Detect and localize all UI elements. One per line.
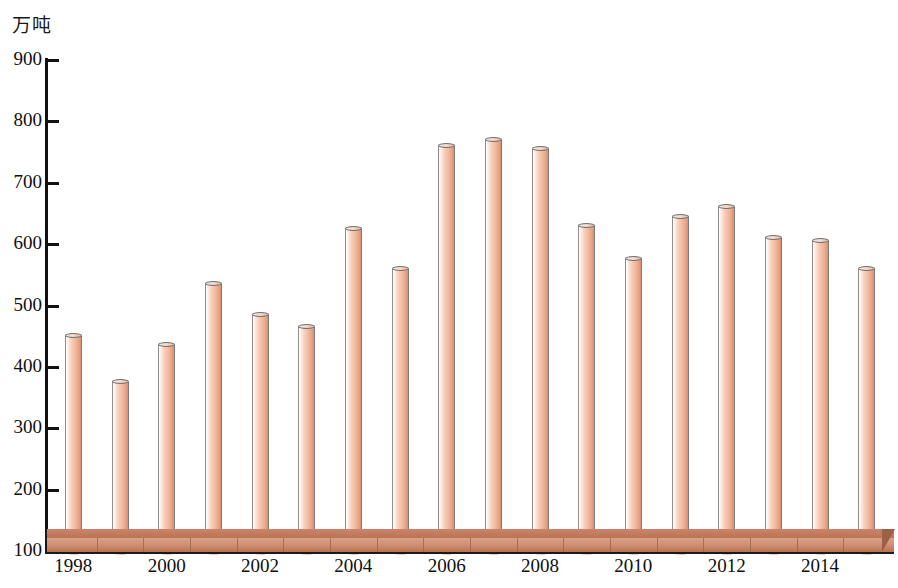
bar-cylinder-body — [812, 241, 829, 551]
base-platform-right-cap — [882, 529, 895, 552]
bar-cylinder-top-cap — [532, 146, 549, 151]
bar — [298, 327, 315, 551]
base-platform-left-edge — [45, 529, 47, 552]
base-platform-divider — [283, 538, 284, 552]
bar-cylinder-top-cap — [812, 238, 829, 243]
base-platform-divider — [190, 538, 191, 552]
base-platform-divider — [423, 538, 424, 552]
bar-cylinder-body — [672, 217, 689, 551]
bar-cylinder-top-cap — [858, 266, 875, 271]
y-axis-tick-label: 600 — [2, 233, 42, 252]
y-axis-tick-label: 500 — [2, 295, 42, 314]
bar-cylinder-top-cap — [298, 324, 315, 329]
bar-cylinder-top-cap — [205, 281, 222, 286]
bar-cylinder-body — [112, 382, 129, 551]
bar — [65, 336, 82, 551]
x-axis-tick-label: 2006 — [428, 556, 466, 575]
bar — [532, 149, 549, 551]
base-platform-divider — [330, 538, 331, 552]
bar — [578, 226, 595, 551]
base-platform-divider — [143, 538, 144, 552]
y-axis-tick-labels: 900800700600500400300200100 — [0, 0, 42, 588]
bar-cylinder-top-cap — [345, 226, 362, 231]
base-platform-divider — [237, 538, 238, 552]
base-platform-divider — [657, 538, 658, 552]
bar — [252, 315, 269, 551]
bar-chart: 万吨 900800700600500400300200100 199820002… — [0, 0, 898, 588]
bar-cylinder-top-cap — [485, 137, 502, 142]
y-axis-tick — [48, 59, 59, 62]
x-axis-tick-label: 2008 — [521, 556, 559, 575]
bar-cylinder-body — [438, 146, 455, 551]
bar-cylinder-top-cap — [672, 214, 689, 219]
bar-cylinder-top-cap — [765, 235, 782, 240]
bar-cylinder-body — [858, 269, 875, 551]
bar-cylinder-body — [205, 284, 222, 551]
base-platform-divider — [797, 538, 798, 552]
y-axis-tick-label: 800 — [2, 110, 42, 129]
bar-cylinder-body — [252, 315, 269, 551]
bar-cylinder-body — [158, 345, 175, 551]
x-axis-tick-label: 2012 — [708, 556, 746, 575]
bar — [205, 284, 222, 551]
plot-area — [48, 58, 894, 551]
y-axis-tick — [48, 305, 59, 308]
bar — [625, 259, 642, 551]
base-platform-divider — [843, 538, 844, 552]
y-axis-tick — [48, 427, 59, 430]
y-axis-tick — [48, 489, 59, 492]
base-platform-divider — [97, 538, 98, 552]
bar-cylinder-top-cap — [252, 312, 269, 317]
bar — [485, 140, 502, 551]
bar-cylinder-body — [765, 238, 782, 551]
bar-cylinder-body — [392, 269, 409, 551]
chart-base-platform — [45, 529, 894, 555]
y-axis-tick — [48, 243, 59, 246]
base-platform-divider — [517, 538, 518, 552]
x-axis-tick-label: 1998 — [54, 556, 92, 575]
bar — [718, 207, 735, 551]
bar-cylinder-body — [532, 149, 549, 551]
y-axis-tick-label: 900 — [2, 49, 42, 68]
y-axis-tick — [48, 366, 59, 369]
y-axis-tick-label: 300 — [2, 417, 42, 436]
bar-cylinder-body — [298, 327, 315, 551]
x-axis-tick-label: 2004 — [334, 556, 372, 575]
y-axis-tick-label: 400 — [2, 356, 42, 375]
bar-cylinder-top-cap — [438, 143, 455, 148]
base-platform-divider — [377, 538, 378, 552]
x-axis-tick-labels: 199820002002200420062008201020122014 — [0, 556, 898, 586]
bar — [765, 238, 782, 551]
bar-cylinder-body — [718, 207, 735, 551]
bar-cylinder-body — [485, 140, 502, 551]
bar — [158, 345, 175, 551]
y-axis-tick — [48, 182, 59, 185]
y-axis-tick-label: 700 — [2, 172, 42, 191]
x-axis-tick-label: 2010 — [614, 556, 652, 575]
bar-cylinder-body — [578, 226, 595, 551]
bar — [345, 229, 362, 551]
bar-cylinder-body — [625, 259, 642, 551]
bar-cylinder-body — [65, 336, 82, 551]
base-platform-divider — [703, 538, 704, 552]
x-axis-tick-label: 2014 — [801, 556, 839, 575]
base-platform-divider — [563, 538, 564, 552]
base-platform-divider — [470, 538, 471, 552]
bar — [672, 217, 689, 551]
base-platform-divider — [750, 538, 751, 552]
bar-cylinder-body — [345, 229, 362, 551]
x-axis-tick-label: 2002 — [241, 556, 279, 575]
y-axis-tick-label: 200 — [2, 479, 42, 498]
bar — [392, 269, 409, 551]
bar-cylinder-top-cap — [578, 223, 595, 228]
bar — [112, 382, 129, 551]
x-axis-tick-label: 2000 — [148, 556, 186, 575]
bar-cylinder-top-cap — [392, 266, 409, 271]
bar — [438, 146, 455, 551]
bar — [858, 269, 875, 551]
y-axis-tick — [48, 120, 59, 123]
bar — [812, 241, 829, 551]
base-platform-divider — [610, 538, 611, 552]
